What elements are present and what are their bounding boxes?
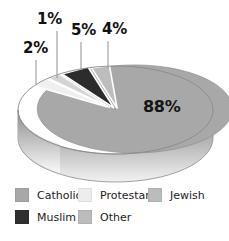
legend-item-other[interactable]: Other [78,207,131,227]
legend-item-jewish[interactable]: Jewish [148,185,205,205]
legend-item-catholic[interactable]: Catholic [15,185,82,205]
legend-swatch-protestant-icon [78,188,92,202]
legend-item-protestant[interactable]: Protestant [78,185,157,205]
callout-label-jewish: 1% [37,12,62,27]
legend-item-muslim[interactable]: Muslim [15,207,76,227]
legend-label-muslim: Muslim [37,212,76,223]
pie-chart: 2% 1% 5% 4% 88% Catholic Protestant Jewi… [0,0,229,241]
callout-label-other: 4% [102,22,127,37]
callout-label-protestant: 2% [23,41,48,56]
legend-label-jewish: Jewish [170,190,205,201]
pie-graphic: 2% 1% 5% 4% 88% [0,0,229,186]
callout-label-muslim: 5% [71,23,96,38]
legend-row: Catholic Protestant Jewish [0,185,229,205]
legend-row: Muslim Other [0,207,229,227]
legend-swatch-jewish-icon [148,188,162,202]
legend-label-catholic: Catholic [37,190,82,201]
legend-swatch-other-icon [78,210,92,224]
legend-swatch-catholic-icon [15,188,29,202]
chart-legend: Catholic Protestant Jewish Muslim Other [0,183,229,241]
legend-label-other: Other [100,212,131,223]
pie-slices [18,65,229,154]
callout-label-catholic: 88% [143,99,180,115]
legend-swatch-muslim-icon [15,210,29,224]
